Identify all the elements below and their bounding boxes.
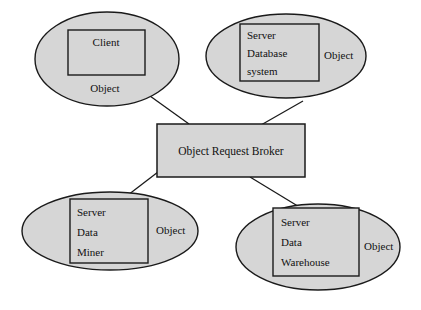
node-server-data-warehouse-inner-label-2: Warehouse <box>281 256 330 268</box>
connector-client-to-broker <box>150 96 189 124</box>
node-server-database-system-inner-label-1: Database <box>247 47 287 59</box>
node-server-database-system-inner-label-0: Server <box>247 29 276 41</box>
diagram-canvas: Client Object Server Database system Obj… <box>0 0 421 310</box>
node-server-data-miner[interactable]: Server Data Miner Object <box>22 192 198 270</box>
node-server-data-warehouse-outer-label: Object <box>364 240 393 252</box>
node-client[interactable]: Client Object <box>35 12 179 106</box>
object-request-broker[interactable]: Object Request Broker <box>157 124 305 177</box>
node-server-database-system[interactable]: Server Database system Object <box>206 14 366 98</box>
node-client-outer-label: Object <box>90 82 119 94</box>
node-client-inner-label-0: Client <box>93 36 120 48</box>
object-request-broker-label: Object Request Broker <box>178 145 284 158</box>
connector-broker-to-data-warehouse <box>250 177 301 208</box>
orb-architecture-diagram: Client Object Server Database system Obj… <box>0 0 421 310</box>
connector-database-to-broker <box>261 101 303 125</box>
node-server-data-warehouse-inner-label-0: Server <box>281 216 310 228</box>
connector-broker-to-data-miner <box>128 172 158 195</box>
node-server-data-warehouse[interactable]: Server Data Warehouse Object <box>236 204 400 290</box>
node-server-data-miner-inner-label-0: Server <box>77 206 106 218</box>
node-server-data-miner-inner-label-2: Miner <box>77 246 104 258</box>
node-server-database-system-inner-label-2: system <box>247 65 278 77</box>
node-server-data-miner-inner-label-1: Data <box>77 226 98 238</box>
node-server-data-warehouse-inner-label-1: Data <box>281 236 302 248</box>
node-server-database-system-outer-label: Object <box>324 49 353 61</box>
node-server-data-miner-outer-label: Object <box>156 224 185 236</box>
